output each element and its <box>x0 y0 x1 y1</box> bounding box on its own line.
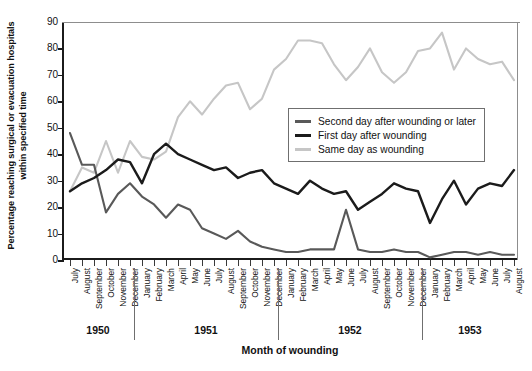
x-tick-mark <box>190 260 191 266</box>
y-tick-mark <box>58 128 64 130</box>
y-tick-label: 90 <box>30 17 58 27</box>
x-tick-mark <box>298 260 299 266</box>
x-tick-mark <box>322 260 323 266</box>
y-tick-mark <box>58 260 64 262</box>
year-group-label: 1950 <box>62 324 134 336</box>
x-tick-mark <box>166 260 167 266</box>
y-tick-label: 40 <box>30 149 58 159</box>
x-tick-mark <box>154 260 155 266</box>
x-tick-mark <box>346 260 347 266</box>
y-tick-label: 50 <box>30 123 58 133</box>
x-axis-title: Month of wounding <box>62 344 518 356</box>
x-tick-mark <box>238 260 239 266</box>
legend-item: Same day as wounding <box>295 142 476 156</box>
y-axis-tick-labels: 0102030405060708090 <box>30 0 58 371</box>
legend-label: First day after wounding <box>318 130 427 141</box>
x-tick-mark <box>454 260 455 266</box>
x-axis-year-band: 1950195119521953 <box>62 268 518 340</box>
y-tick-mark <box>58 75 64 77</box>
x-tick-mark <box>82 260 83 266</box>
year-group-label: 1951 <box>134 324 278 336</box>
x-tick-mark <box>430 260 431 266</box>
y-tick-mark <box>58 48 64 50</box>
x-tick-mark <box>142 260 143 266</box>
y-tick-mark <box>58 207 64 209</box>
x-tick-mark <box>478 260 479 266</box>
legend-label: Second day after wounding or later <box>318 116 476 127</box>
chart-container: Percentage reaching surgical or evacuati… <box>0 0 532 371</box>
legend-item: First day after wounding <box>295 128 476 142</box>
legend-label: Same day as wounding <box>318 144 424 155</box>
x-tick-mark <box>370 260 371 266</box>
x-tick-mark <box>418 260 419 266</box>
y-tick-label: 10 <box>30 229 58 239</box>
x-tick-mark <box>286 260 287 266</box>
chart-legend: Second day after wounding or laterFirst … <box>288 108 485 162</box>
x-tick-mark <box>178 260 179 266</box>
y-tick-mark <box>58 234 64 236</box>
x-tick-mark <box>382 260 383 266</box>
legend-swatch-icon <box>295 134 311 137</box>
legend-swatch-icon <box>295 120 311 123</box>
y-tick-label: 70 <box>30 70 58 80</box>
x-tick-mark <box>202 260 203 266</box>
y-axis-title-wrapper: Percentage reaching surgical or evacuati… <box>0 14 34 264</box>
x-tick-mark <box>250 260 251 266</box>
y-tick-label: 30 <box>30 176 58 186</box>
x-tick-mark <box>406 260 407 266</box>
x-tick-mark <box>94 260 95 266</box>
year-group-label: 1952 <box>278 324 422 336</box>
x-tick-mark <box>106 260 107 266</box>
y-axis-title: Percentage reaching surgical or evacuati… <box>6 11 29 261</box>
x-tick-mark <box>310 260 311 266</box>
x-tick-mark <box>394 260 395 266</box>
y-tick-label: 20 <box>30 202 58 212</box>
x-tick-mark <box>226 260 227 266</box>
x-tick-mark <box>490 260 491 266</box>
x-tick-mark <box>214 260 215 266</box>
x-tick-mark <box>358 260 359 266</box>
x-tick-mark <box>118 260 119 266</box>
y-tick-mark <box>58 101 64 103</box>
legend-swatch-icon <box>295 148 311 151</box>
x-tick-mark <box>514 260 515 266</box>
x-tick-mark <box>466 260 467 266</box>
legend-item: Second day after wounding or later <box>295 114 476 128</box>
x-tick-mark <box>442 260 443 266</box>
x-tick-mark <box>262 260 263 266</box>
year-group-label: 1953 <box>422 324 518 336</box>
x-tick-mark <box>70 260 71 266</box>
y-tick-mark <box>58 154 64 156</box>
y-tick-label: 0 <box>30 255 58 265</box>
y-tick-label: 80 <box>30 43 58 53</box>
x-tick-mark <box>334 260 335 266</box>
y-tick-mark <box>58 181 64 183</box>
y-tick-label: 60 <box>30 96 58 106</box>
x-tick-mark <box>130 260 131 266</box>
x-tick-mark <box>274 260 275 266</box>
x-tick-mark <box>502 260 503 266</box>
